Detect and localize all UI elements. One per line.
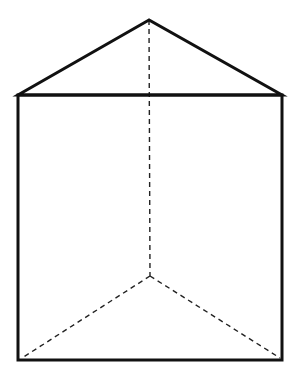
triangular-prism-diagram (0, 0, 297, 377)
